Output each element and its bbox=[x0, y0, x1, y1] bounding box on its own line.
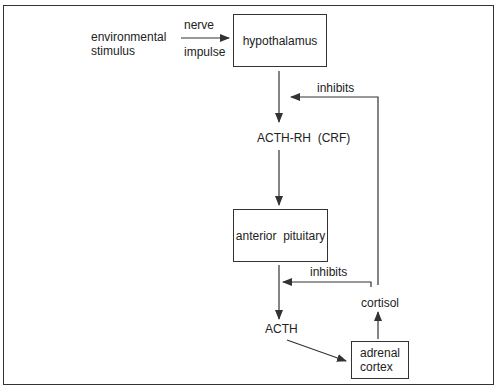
inhibits-top-label: inhibits bbox=[317, 81, 354, 95]
impulse-label: impulse bbox=[184, 45, 225, 59]
anterior-pituitary-box: anterior pituitary bbox=[233, 209, 328, 262]
adrenal-cortex-box: adrenal cortex bbox=[351, 341, 409, 379]
adrenal-label: adrenal bbox=[360, 346, 400, 360]
cortex-label: cortex bbox=[360, 360, 393, 374]
environmental-stimulus-label: environmental stimulus bbox=[91, 30, 166, 58]
hypothalamus-label: hypothalamus bbox=[243, 34, 318, 48]
cortisol-label: cortisol bbox=[361, 296, 399, 310]
arrow-cortisol-inhibits-pituitary bbox=[283, 282, 371, 287]
nerve-label: nerve bbox=[184, 18, 214, 32]
anterior-pituitary-label: anterior pituitary bbox=[236, 229, 325, 243]
acth-rh-label: ACTH-RH (CRF) bbox=[257, 131, 350, 145]
acth-label: ACTH bbox=[265, 322, 298, 336]
arrow-acth-to-adrenal bbox=[287, 340, 346, 361]
hypothalamus-box: hypothalamus bbox=[233, 14, 327, 67]
inhibits-bottom-label: inhibits bbox=[310, 265, 347, 279]
